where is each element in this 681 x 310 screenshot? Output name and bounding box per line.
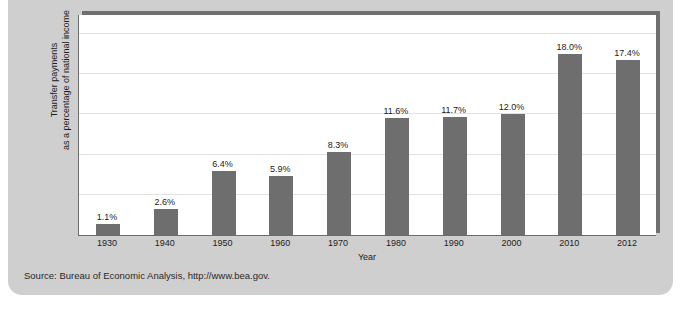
- bar: [616, 60, 640, 235]
- bar-value-label: 5.9%: [254, 164, 306, 174]
- bar-value-label: 1.1%: [81, 212, 133, 222]
- x-tick-label: 1980: [370, 238, 422, 248]
- bar-value-label: 12.0%: [486, 102, 538, 112]
- bar-value-label: 17.4%: [601, 48, 653, 58]
- bar: [443, 117, 467, 235]
- x-tick-label: 1970: [312, 238, 364, 248]
- bar: [212, 171, 236, 235]
- x-tick-label: 1930: [81, 238, 133, 248]
- x-tick-label: 2010: [543, 238, 595, 248]
- x-tick-label: 2012: [601, 238, 653, 248]
- bar-value-label: 11.6%: [370, 106, 422, 116]
- bar: [96, 224, 120, 235]
- bar: [385, 118, 409, 235]
- bar: [558, 54, 582, 235]
- bar-value-label: 18.0%: [543, 42, 595, 52]
- bar-value-label: 11.7%: [428, 105, 480, 115]
- bar-value-label: 8.3%: [312, 140, 364, 150]
- y-axis-title-line2: as a percentage of national income: [60, 0, 72, 170]
- y-axis-title: Transfer payments as a percentage of nat…: [48, 0, 72, 170]
- bar: [501, 114, 525, 235]
- x-tick-label: 1990: [428, 238, 480, 248]
- gridline: [79, 33, 656, 34]
- figure-container: Transfer payments as a percentage of nat…: [0, 0, 681, 310]
- x-tick-label: 1950: [197, 238, 249, 248]
- bar: [269, 176, 293, 235]
- x-tick-label: 2000: [486, 238, 538, 248]
- bar: [154, 209, 178, 235]
- x-tick-label: 1940: [139, 238, 191, 248]
- x-axis-title: Year: [78, 252, 656, 262]
- bar: [327, 152, 351, 235]
- bar-value-label: 2.6%: [139, 197, 191, 207]
- source-note: Source: Bureau of Economic Analysis, htt…: [24, 270, 270, 281]
- bar-value-label: 6.4%: [197, 159, 249, 169]
- x-tick-label: 1960: [254, 238, 306, 248]
- y-axis-title-line1: Transfer payments: [48, 0, 60, 170]
